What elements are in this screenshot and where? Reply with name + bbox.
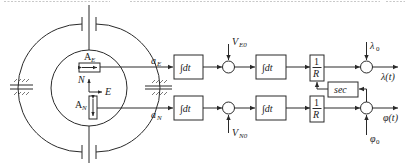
svg-text:0: 0: [376, 138, 380, 146]
svg-text:∫dt: ∫dt: [261, 103, 273, 115]
svg-text:∫dt: ∫dt: [261, 62, 273, 74]
diagram-canvas: A E A N N E a E ∫dt V E0 ∫dt: [0, 0, 409, 164]
north-sum-1: [223, 102, 235, 114]
svg-text:λ(t): λ(t): [380, 71, 395, 83]
svg-text:N: N: [77, 74, 86, 85]
accelerometer-east: A E: [79, 51, 100, 72]
north-channel: a N ∫dt V N0 ∫dt 1 R φ 0 φ(t): [97, 96, 399, 146]
svg-text:φ(t): φ(t): [383, 112, 399, 124]
svg-text:sec: sec: [334, 84, 347, 95]
svg-text:N: N: [156, 114, 162, 122]
outer-ring-left: [18, 24, 82, 152]
svg-text:R: R: [312, 109, 319, 120]
svg-text:0: 0: [376, 45, 380, 53]
gimbal-platform: A E A N N E: [10, 5, 172, 163]
svg-text:a: a: [151, 109, 156, 120]
east-channel: a E ∫dt V E0 ∫dt 1 R λ 0 λ(t): [100, 36, 398, 83]
svg-text:λ: λ: [369, 40, 375, 51]
svg-text:N0: N0: [238, 132, 248, 140]
navigation-block-diagram: A E A N N E a E ∫dt V E0 ∫dt: [0, 0, 409, 164]
svg-text:E: E: [156, 60, 162, 68]
svg-text:∫dt: ∫dt: [179, 103, 191, 115]
north-sum-2: [361, 102, 373, 114]
east-sum-1: [223, 61, 235, 73]
east-sum-2: [361, 61, 373, 73]
svg-text:a: a: [151, 55, 156, 66]
svg-text:R: R: [312, 68, 319, 79]
svg-text:∫dt: ∫dt: [179, 62, 191, 74]
svg-text:E: E: [104, 86, 111, 97]
svg-text:E: E: [90, 56, 96, 64]
svg-text:1: 1: [314, 97, 319, 108]
right-mount: [145, 80, 172, 95]
accelerometer-north: A N: [75, 96, 97, 119]
svg-text:1: 1: [314, 56, 319, 67]
svg-text:N: N: [81, 104, 87, 112]
platform-axes: N E: [77, 74, 111, 97]
svg-text:E0: E0: [238, 41, 247, 49]
left-mount: [10, 79, 33, 95]
